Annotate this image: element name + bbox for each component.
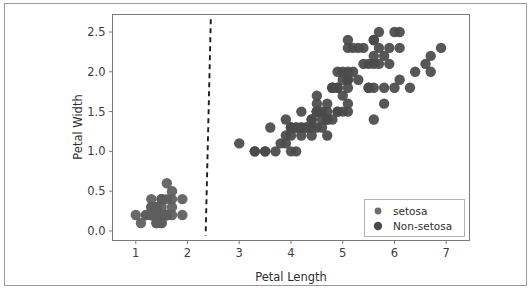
x-tick-label-4: 4 — [287, 246, 294, 260]
data-point — [317, 114, 327, 124]
data-point — [260, 146, 270, 156]
data-point — [348, 67, 358, 77]
data-point — [369, 114, 379, 124]
legend-label-non-setosa: Non-setosa — [393, 220, 452, 232]
data-point — [291, 146, 301, 156]
data-point — [358, 43, 368, 53]
legend-marker-non-setosa — [374, 222, 382, 230]
x-tick-label-6: 6 — [391, 246, 398, 260]
data-point — [394, 43, 404, 53]
x-axis-label: Petal Length — [255, 270, 327, 284]
data-point — [374, 27, 384, 37]
data-point — [291, 122, 301, 132]
matplotlib-figure: 1234567 0.00.51.01.52.02.5 Petal Length … — [0, 0, 532, 293]
data-point — [312, 90, 322, 100]
data-point — [363, 83, 373, 93]
x-tick-label-7: 7 — [443, 246, 450, 260]
data-point — [394, 75, 404, 85]
scatter-plot: 1234567 0.00.51.01.52.02.5 Petal Length … — [0, 0, 532, 293]
y-tick-label-2.0: 2.0 — [87, 65, 105, 79]
y-tick-label-1.0: 1.0 — [87, 144, 105, 158]
x-tick-label-2: 2 — [184, 246, 191, 260]
data-point — [296, 106, 306, 116]
data-point — [250, 146, 260, 156]
data-point — [301, 122, 311, 132]
data-point — [369, 51, 379, 61]
data-point — [131, 210, 141, 220]
data-point — [265, 122, 275, 132]
legend[interactable]: setosa Non-setosa — [365, 200, 465, 237]
y-tick-label-0.5: 0.5 — [87, 184, 105, 198]
data-point — [343, 106, 353, 116]
data-point — [394, 27, 404, 37]
y-axis-label: Petal Width — [71, 94, 85, 159]
screenshot-canvas: 1234567 0.00.51.01.52.02.5 Petal Length … — [0, 0, 532, 293]
data-point — [177, 194, 187, 204]
data-point — [162, 178, 172, 188]
data-point — [379, 83, 389, 93]
data-point — [379, 98, 389, 108]
data-point — [358, 59, 368, 69]
x-tick-label-1: 1 — [132, 246, 139, 260]
data-point — [343, 83, 353, 93]
legend-marker-setosa — [375, 208, 382, 215]
x-axis-ticks: 1234567 — [132, 241, 450, 260]
data-point — [426, 67, 436, 77]
data-point — [405, 83, 415, 93]
legend-label-setosa: setosa — [393, 205, 427, 217]
y-axis-ticks: 0.00.51.01.52.02.5 — [87, 25, 112, 238]
data-point — [234, 138, 244, 148]
y-tick-label-2.5: 2.5 — [87, 25, 105, 39]
data-point — [384, 43, 394, 53]
x-tick-label-3: 3 — [236, 246, 243, 260]
data-point — [177, 210, 187, 220]
data-point — [322, 130, 332, 140]
data-point — [151, 210, 161, 220]
x-tick-label-5: 5 — [339, 246, 346, 260]
data-point — [426, 51, 436, 61]
data-point — [410, 67, 420, 77]
data-point — [327, 83, 337, 93]
data-point — [270, 146, 280, 156]
data-point — [436, 43, 446, 53]
y-tick-label-1.5: 1.5 — [87, 105, 105, 119]
y-tick-label-0.0: 0.0 — [87, 224, 105, 238]
data-point — [348, 43, 358, 53]
